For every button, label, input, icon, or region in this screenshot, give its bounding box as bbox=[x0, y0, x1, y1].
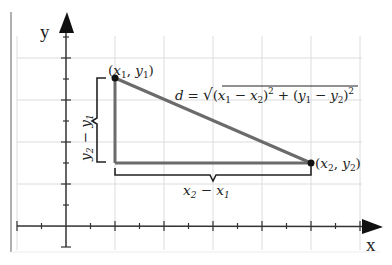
grid bbox=[17, 36, 362, 250]
x-axis-arrow-icon bbox=[362, 219, 383, 234]
x-axis-label: x bbox=[366, 234, 376, 255]
x-axis: x bbox=[17, 219, 383, 255]
distance-formula-text: d = √(x1 − x2)2 + (y1 − y2)2 bbox=[175, 85, 354, 105]
y-axis: y bbox=[40, 12, 74, 247]
vertical-brace: y2 − y1 bbox=[77, 78, 106, 162]
distance-formula-diagram: x y y2 − y1 x2 − x1 (x1, y1) (x2, y2) bbox=[0, 0, 392, 265]
point-2-label: (x2, y2) bbox=[315, 155, 361, 173]
point-1-label: (x1, y1) bbox=[108, 62, 154, 80]
point-2-marker bbox=[308, 160, 315, 167]
distance-formula: d = √(x1 − x2)2 + (y1 − y2)2 bbox=[175, 85, 358, 105]
y-axis-arrow-icon bbox=[59, 12, 74, 33]
horizontal-brace-label: x2 − x1 bbox=[183, 182, 230, 200]
x-axis-line bbox=[17, 226, 362, 227]
y-axis-label: y bbox=[40, 21, 50, 42]
vertical-brace-label: y2 − y1 bbox=[77, 114, 95, 162]
